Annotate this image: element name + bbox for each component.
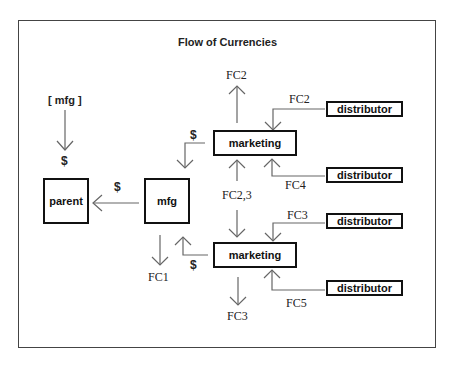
node-parent: parent bbox=[43, 178, 89, 224]
dollar-label: $ bbox=[114, 180, 121, 194]
node-distributor: distributor bbox=[326, 280, 403, 296]
node-marketing-bottom: marketing bbox=[213, 242, 297, 268]
fc3-out-label: FC3 bbox=[227, 309, 248, 324]
fc5-label: FC5 bbox=[286, 296, 307, 311]
fc23-label: FC2,3 bbox=[222, 188, 252, 203]
dollar-label: $ bbox=[190, 258, 197, 272]
fc4-label: FC4 bbox=[285, 178, 306, 193]
fc1-label: FC1 bbox=[148, 270, 169, 285]
dollar-label: $ bbox=[61, 154, 68, 168]
fc2-out-label: FC2 bbox=[226, 68, 247, 83]
node-distributor: distributor bbox=[326, 213, 403, 229]
dollar-label: $ bbox=[190, 128, 197, 142]
node-marketing-top: marketing bbox=[213, 130, 297, 156]
fc2-in-label: FC2 bbox=[289, 92, 310, 107]
node-mfg: mfg bbox=[144, 178, 190, 224]
node-distributor: distributor bbox=[326, 101, 403, 117]
node-distributor: distributor bbox=[326, 167, 403, 183]
fc3-label: FC3 bbox=[287, 208, 308, 223]
mfg-source-label: [ mfg ] bbox=[48, 94, 82, 106]
